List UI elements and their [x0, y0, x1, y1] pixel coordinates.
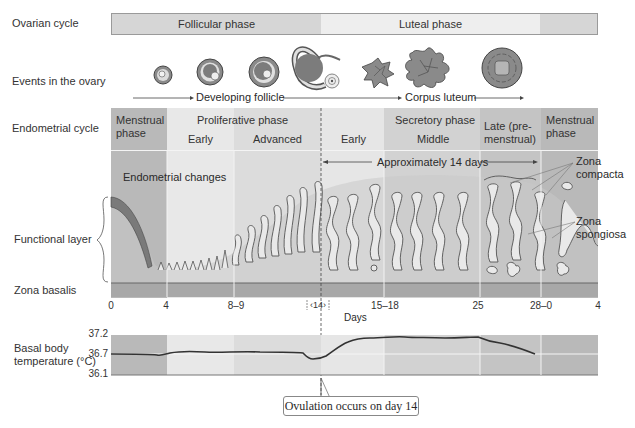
zona-spongiosa-label: Zona spongiosa [576, 215, 626, 241]
proliferative-early-label: Early [188, 133, 213, 146]
temp-col-menstrual-1 [111, 335, 167, 375]
endometrial-changes-label: Endometrial changes [123, 171, 226, 183]
secretory-early-label: Early [341, 133, 366, 146]
temp-col-menstrual-2 [541, 335, 598, 375]
menstrual-1-line2: phase [116, 127, 164, 140]
temp-y-tick-36-7: 36.7 [89, 348, 108, 359]
temp-col-prolif-advanced [234, 335, 321, 375]
row-label-events-in-ovary: Events in the ovary [12, 75, 106, 87]
row-label-functional-layer: Functional layer [14, 233, 92, 245]
zona-spongiosa-line1: Zona [576, 215, 626, 228]
day-tick-28-0: 28–0 [530, 300, 552, 311]
early-corpus-luteum-icon [362, 58, 394, 88]
day-tick-14: ‹14› [310, 300, 326, 310]
mature-follicle-icon [295, 49, 340, 88]
menstrual-phase-label-2: Menstrual phase [546, 114, 594, 140]
mature-corpus-luteum-icon [406, 48, 450, 88]
proliferative-advanced-label: Advanced [253, 133, 302, 146]
tertiary-follicle-icon [249, 57, 279, 87]
row-label-zona-basalis: Zona basalis [14, 284, 76, 296]
day-tick-0: 0 [108, 300, 114, 311]
row-label-basal-body-temperature: Basal body temperature (°C) [14, 342, 96, 368]
menstrual-2-line1: Menstrual [546, 114, 594, 127]
temp-col-prolif-early [167, 335, 234, 375]
row-label-endometrial-cycle: Endometrial cycle [12, 122, 99, 134]
ovarian-phase-next-follicular [540, 13, 598, 35]
menstrual-phase-label-1: Menstrual phase [116, 114, 164, 140]
zona-spongiosa-line2: spongiosa [576, 228, 626, 241]
day-tick-4: 4 [163, 300, 169, 311]
header-divider [111, 150, 598, 151]
secondary-follicle-icon [197, 59, 223, 85]
menstrual-2-line2: phase [546, 127, 594, 140]
corpus-luteum-label: Corpus luteum [405, 91, 477, 103]
temp-y-tick-36-1: 36.1 [89, 368, 108, 379]
secretory-middle-label: Middle [417, 133, 449, 146]
row-label-ovarian-cycle: Ovarian cycle [12, 17, 79, 29]
temp-col-secretory-middle [384, 335, 480, 375]
approx-14-days-label: Approximately 14 days [377, 156, 488, 168]
ovulation-callout: Ovulation occurs on day 14 [283, 396, 419, 416]
secretory-phase-label: Secretory phase [395, 114, 475, 127]
temp-y-tick-37-2: 37.2 [89, 328, 108, 339]
day-tick-25: 25 [472, 300, 483, 311]
menstrual-1-line1: Menstrual [116, 114, 164, 127]
proliferative-phase-label: Proliferative phase [197, 114, 288, 127]
corpus-albicans-icon [482, 48, 522, 88]
temp-col-secretory-early [321, 335, 384, 375]
zona-compacta-line1: Zona [576, 155, 624, 168]
days-axis-label: Days [344, 312, 367, 323]
bbt-label-line2: temperature (°C) [14, 355, 96, 368]
temp-col-late [480, 335, 541, 375]
day-tick-15-18: 15–18 [371, 300, 399, 311]
day-tick-4b: 4 [595, 300, 601, 311]
zona-compacta-line2: compacta [576, 168, 624, 181]
zona-compacta-label: Zona compacta [576, 155, 624, 181]
primary-follicle-icon [154, 66, 172, 84]
bbt-label-line1: Basal body [14, 342, 96, 355]
ovarian-phase-follicular: Follicular phase [111, 13, 322, 35]
late-line1: Late (pre- [484, 120, 536, 133]
late-premenstrual-label: Late (pre- menstrual) [484, 120, 536, 146]
developing-follicle-label: Developing follicle [196, 91, 285, 103]
day-tick-8-9: 8–9 [228, 300, 245, 311]
ovarian-phase-luteal: Luteal phase [321, 13, 541, 35]
late-line2: menstrual) [484, 133, 536, 146]
